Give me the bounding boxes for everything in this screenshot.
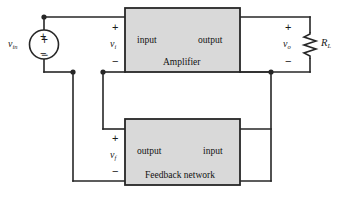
feedback-input-port-label: input xyxy=(203,146,223,156)
output-voltage-label: vo xyxy=(283,39,291,49)
amplifier-output-port-label: output xyxy=(198,35,222,45)
junction-dot-source-bottom xyxy=(70,69,75,74)
amplifier-block-caption: Amplifier xyxy=(163,57,200,67)
feedback-output-port-label: output xyxy=(137,146,161,156)
source-internal-plus: + xyxy=(41,34,48,46)
source-voltage-label: vin xyxy=(8,39,18,49)
junction-dot-amp-input-minus xyxy=(100,69,105,74)
feedback-minus-sign: − xyxy=(112,166,118,177)
input-plus-sign: + xyxy=(112,22,118,33)
source-internal-minus: − xyxy=(41,49,48,61)
feedback-plus-sign: + xyxy=(112,133,118,144)
feedback-voltage-label: vf xyxy=(110,150,116,160)
junction-dot-output-bottom xyxy=(268,69,273,74)
feedback-amplifier-diagram: vin + − + vi − + vo − RL + vf − input ou… xyxy=(0,0,359,201)
output-plus-sign: + xyxy=(285,22,291,33)
load-resistor-label: RL xyxy=(321,38,331,49)
load-resistor-zigzag xyxy=(304,32,316,59)
amplifier-input-port-label: input xyxy=(137,35,157,45)
input-voltage-label: vi xyxy=(110,39,116,49)
feedback-block-caption: Feedback network xyxy=(145,170,215,180)
output-minus-sign: − xyxy=(285,56,291,67)
input-minus-sign: − xyxy=(112,56,118,67)
junction-dot-source-top xyxy=(41,14,46,19)
